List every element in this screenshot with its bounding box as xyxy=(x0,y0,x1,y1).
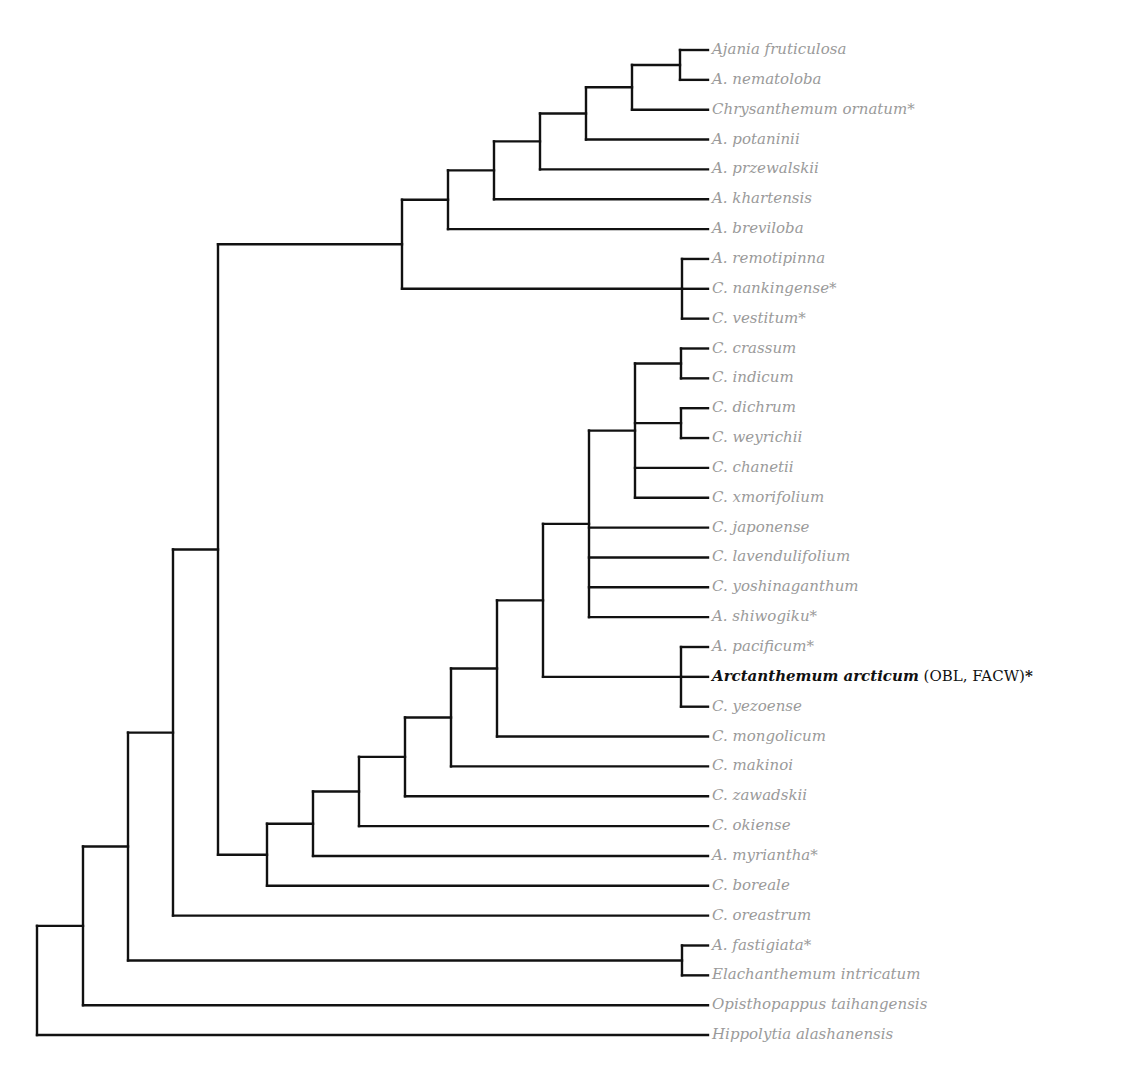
asterisk-marker: * xyxy=(907,100,915,118)
leaf-label: Chrysanthemum ornatum* xyxy=(712,100,915,118)
taxon-name: C. vestitum xyxy=(712,309,798,327)
leaf-label: A. potaninii xyxy=(712,130,800,148)
leaf-label: C. lavendulifolium xyxy=(712,547,850,565)
taxon-name: Arctanthemum arcticum xyxy=(712,667,919,685)
leaf-label: C. dichrum xyxy=(712,398,796,416)
leaf-label: A. fastigiata* xyxy=(712,936,811,954)
leaf-label: C. makinoi xyxy=(712,756,793,774)
leaf-label: C. oreastrum xyxy=(712,906,811,924)
taxon-name: A. nematoloba xyxy=(712,70,822,88)
asterisk-marker: * xyxy=(829,279,837,297)
taxon-name: C. dichrum xyxy=(712,398,796,416)
asterisk-marker: * xyxy=(798,309,806,327)
phylogenetic-tree xyxy=(0,0,1143,1075)
taxon-name: C. boreale xyxy=(712,876,790,894)
leaf-label: Ajania fruticulosa xyxy=(712,40,846,58)
asterisk-marker: * xyxy=(804,936,812,954)
taxon-name: C. oreastrum xyxy=(712,906,811,924)
leaf-label: C. chanetii xyxy=(712,458,794,476)
taxon-name: A. pacificum xyxy=(712,637,806,655)
taxon-name: Ajania fruticulosa xyxy=(712,40,846,58)
leaf-label: A. breviloba xyxy=(712,219,804,237)
leaf-label: C. boreale xyxy=(712,876,790,894)
taxon-name: C. okiense xyxy=(712,816,791,834)
taxon-name: Elachanthemum intricatum xyxy=(712,965,921,983)
taxon-name: Hippolytia alashanensis xyxy=(712,1025,893,1043)
taxon-name: C. weyrichii xyxy=(712,428,802,446)
taxon-name: C. nankingense xyxy=(712,279,829,297)
taxon-name: C. xmorifolium xyxy=(712,488,824,506)
taxon-name: C. crassum xyxy=(712,339,796,357)
taxon-name: C. yezoense xyxy=(712,697,802,715)
taxon-name: C. mongolicum xyxy=(712,727,826,745)
leaf-label: C. zawadskii xyxy=(712,786,807,804)
asterisk-marker: * xyxy=(810,607,818,625)
leaf-label: A. myriantha* xyxy=(712,846,818,864)
taxon-name: A. myriantha xyxy=(712,846,810,864)
asterisk-marker: * xyxy=(1025,667,1033,685)
leaf-label: Elachanthemum intricatum xyxy=(712,965,921,983)
asterisk-marker: * xyxy=(810,846,818,864)
taxon-name: Opisthopappus taihangensis xyxy=(712,995,927,1013)
leaf-label: C. mongolicum xyxy=(712,727,826,745)
taxon-name: A. shiwogiku xyxy=(712,607,810,625)
leaf-label: A. remotipinna xyxy=(712,249,825,267)
wetland-status: (OBL, FACW) xyxy=(919,667,1025,685)
leaf-label: C. nankingense* xyxy=(712,279,837,297)
taxon-name: A. remotipinna xyxy=(712,249,825,267)
taxon-name: C. chanetii xyxy=(712,458,794,476)
leaf-label: Hippolytia alashanensis xyxy=(712,1025,893,1043)
leaf-label: Arctanthemum arcticum (OBL, FACW)* xyxy=(712,667,1033,685)
taxon-name: C. zawadskii xyxy=(712,786,807,804)
leaf-label: C. japonense xyxy=(712,518,809,536)
leaf-label: A. przewalskii xyxy=(712,159,819,177)
leaf-label: Opisthopappus taihangensis xyxy=(712,995,927,1013)
leaf-label: C. vestitum* xyxy=(712,309,806,327)
taxon-name: A. przewalskii xyxy=(712,159,819,177)
leaf-label: C. indicum xyxy=(712,368,794,386)
asterisk-marker: * xyxy=(806,637,814,655)
leaf-label: A. nematoloba xyxy=(712,70,822,88)
taxon-name: C. indicum xyxy=(712,368,794,386)
leaf-label: C. yezoense xyxy=(712,697,802,715)
taxon-name: A. khartensis xyxy=(712,189,812,207)
taxon-name: Chrysanthemum ornatum xyxy=(712,100,907,118)
leaf-label: C. xmorifolium xyxy=(712,488,824,506)
taxon-name: A. fastigiata xyxy=(712,936,804,954)
leaf-label: C. okiense xyxy=(712,816,791,834)
leaf-label: A. shiwogiku* xyxy=(712,607,817,625)
taxon-name: C. japonense xyxy=(712,518,809,536)
leaf-label: C. crassum xyxy=(712,339,796,357)
taxon-name: C. lavendulifolium xyxy=(712,547,850,565)
taxon-name: A. breviloba xyxy=(712,219,804,237)
leaf-label: C. yoshinaganthum xyxy=(712,577,859,595)
leaf-label: A. khartensis xyxy=(712,189,812,207)
taxon-name: C. makinoi xyxy=(712,756,793,774)
leaf-label: C. weyrichii xyxy=(712,428,802,446)
taxon-name: A. potaninii xyxy=(712,130,800,148)
leaf-label: A. pacificum* xyxy=(712,637,814,655)
taxon-name: C. yoshinaganthum xyxy=(712,577,859,595)
